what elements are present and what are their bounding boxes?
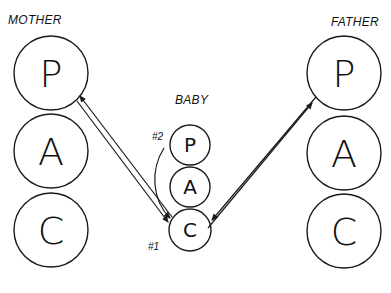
svg-text:C: C — [331, 210, 358, 254]
father-baby-transaction-arrows — [208, 97, 316, 228]
svg-text:A: A — [183, 175, 197, 199]
annotation-2: #2 — [152, 131, 164, 142]
svg-text:P: P — [40, 52, 63, 96]
svg-text:A: A — [38, 130, 64, 174]
baby-parent-state: P — [170, 125, 210, 165]
svg-text:P: P — [333, 52, 356, 96]
father-label: FATHER — [331, 15, 379, 29]
svg-text:C: C — [183, 218, 197, 242]
diagram-canvas: MOTHER BABY FATHER P A C P A C P A C — [0, 0, 391, 293]
baby-adult-state: A — [170, 167, 210, 207]
father-adult-state: A — [307, 116, 381, 190]
father-child-state: C — [307, 194, 381, 268]
mother-adult-state: A — [14, 114, 88, 188]
baby-label: BABY — [175, 93, 209, 107]
svg-text:C: C — [38, 209, 65, 253]
mother-baby-transaction-arrows — [77, 96, 172, 222]
mother-parent-state: P — [14, 36, 88, 110]
mother-label: MOTHER — [8, 13, 62, 27]
svg-text:P: P — [184, 133, 196, 157]
mother-child-state: C — [14, 193, 88, 267]
svg-text:A: A — [331, 132, 357, 176]
baby-child-state: C — [169, 209, 211, 251]
annotation-1: #1 — [148, 241, 159, 252]
father-parent-state: P — [307, 36, 381, 110]
